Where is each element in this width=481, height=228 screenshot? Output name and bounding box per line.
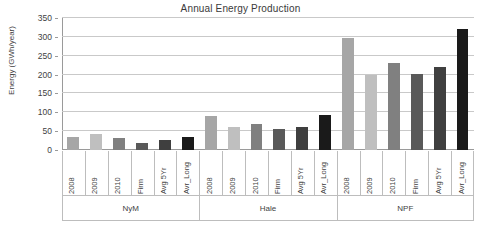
category-separator (382, 151, 383, 195)
x-tick-NPF-2009: 2009 (360, 151, 383, 195)
x-tick-NyM-Avr_Long: Avr_Long (176, 151, 199, 195)
y-tick-label-350: 350 (38, 13, 52, 23)
group-separator (473, 195, 474, 221)
bar-NPF-2008 (342, 38, 354, 150)
x-tick-NyM-Avg-5Yr: Avg 5Yr (154, 151, 177, 195)
category-separator (154, 151, 155, 195)
category-separator (360, 151, 361, 195)
x-axis-category-labels: 200820092010FirmAvg 5YrAvr_Long200820092… (62, 151, 474, 195)
group-separator (62, 195, 63, 221)
y-tick-mark-50 (55, 131, 58, 132)
bar-Hale-Avg-5Yr (296, 127, 308, 150)
y-tick-mark-300 (55, 37, 58, 38)
x-tick-NPF-Firm: Firm (405, 151, 428, 195)
group-label-NyM: NyM (62, 195, 199, 221)
group-label-Hale: Hale (199, 195, 336, 221)
category-separator (428, 151, 429, 195)
category-separator (473, 151, 474, 195)
bar-NPF-2009 (365, 75, 377, 150)
chart-title: Annual Energy Production (0, 3, 481, 14)
bar-NyM-Avg-5Yr (159, 140, 171, 150)
category-separator (62, 151, 63, 195)
y-tick-mark-350 (55, 18, 58, 19)
y-tick-label-100: 100 (38, 107, 52, 117)
x-tick-label: Avr_Long (457, 162, 466, 194)
y-tick-mark-200 (55, 75, 58, 76)
bar-Hale-2010 (251, 124, 263, 150)
y-tick-label-150: 150 (38, 88, 52, 98)
category-separator (108, 151, 109, 195)
x-tick-NPF-Avr_Long: Avr_Long (451, 151, 474, 195)
x-tick-Hale-Firm: Firm (268, 151, 291, 195)
category-separator (176, 151, 177, 195)
bar-NyM-Firm (136, 143, 148, 150)
bar-NyM-2009 (90, 134, 102, 150)
x-tick-Hale-Avg-5Yr: Avg 5Yr (291, 151, 314, 195)
y-tick-mark-150 (55, 93, 58, 94)
x-tick-label: Avg 5Yr (297, 167, 306, 194)
bar-NPF-Firm (411, 74, 423, 150)
x-tick-label: 2010 (388, 177, 397, 194)
bar-NyM-2010 (113, 138, 125, 150)
annual-energy-production-chart: Annual Energy Production Energy (GWh/yea… (0, 0, 481, 228)
group-separator (199, 195, 200, 221)
y-tick-label-0: 0 (47, 145, 52, 155)
category-separator (85, 151, 86, 195)
x-tick-label: 2008 (68, 177, 77, 194)
y-tick-label-50: 50 (43, 126, 52, 136)
bars-layer (62, 18, 474, 150)
category-separator (222, 151, 223, 195)
group-label-text: NyM (122, 204, 138, 213)
x-tick-label: Avg 5Yr (434, 167, 443, 194)
category-separator (245, 151, 246, 195)
x-tick-label: Firm (274, 179, 283, 194)
x-tick-NyM-Firm: Firm (131, 151, 154, 195)
plot-area (62, 18, 474, 150)
x-tick-Hale-2010: 2010 (245, 151, 268, 195)
group-label-text: NPF (397, 204, 413, 213)
bar-Hale-2009 (228, 127, 240, 150)
category-separator (291, 151, 292, 195)
category-separator (131, 151, 132, 195)
x-tick-label: 2009 (228, 177, 237, 194)
x-tick-label: Firm (136, 179, 145, 194)
y-tick-label-300: 300 (38, 32, 52, 42)
bar-Hale-Avr_Long (319, 115, 331, 150)
bar-Hale-2008 (205, 116, 217, 150)
category-separator (314, 151, 315, 195)
y-tick-label-200: 200 (38, 70, 52, 80)
category-separator (451, 151, 452, 195)
x-tick-Hale-2009: 2009 (222, 151, 245, 195)
x-tick-label: 2008 (205, 177, 214, 194)
group-label-NPF: NPF (337, 195, 474, 221)
bar-NyM-Avr_Long (182, 137, 194, 150)
group-label-text: Hale (260, 204, 276, 213)
category-separator (199, 151, 200, 195)
x-tick-Hale-Avr_Long: Avr_Long (314, 151, 337, 195)
x-tick-label: Avr_Long (320, 162, 329, 194)
x-tick-label: 2008 (342, 177, 351, 194)
group-label-bottom-rule (62, 220, 474, 221)
x-tick-label: Avr_Long (182, 162, 191, 194)
x-tick-Hale-2008: 2008 (199, 151, 222, 195)
bar-Hale-Firm (273, 129, 285, 150)
bar-NPF-Avg-5Yr (434, 67, 446, 150)
x-tick-label: Firm (411, 179, 420, 194)
y-tick-label-250: 250 (38, 51, 52, 61)
x-tick-NPF-2010: 2010 (382, 151, 405, 195)
x-tick-NyM-2008: 2008 (62, 151, 85, 195)
bar-NyM-2008 (67, 137, 79, 150)
y-tick-mark-250 (55, 56, 58, 57)
y-tick-mark-100 (55, 112, 58, 113)
category-separator (268, 151, 269, 195)
x-tick-NPF-Avg-5Yr: Avg 5Yr (428, 151, 451, 195)
y-tick-mark-0 (55, 150, 58, 151)
x-axis-group-labels: NyMHaleNPF (62, 195, 474, 221)
x-tick-label: Avg 5Yr (159, 167, 168, 194)
bar-NPF-Avr_Long (457, 29, 469, 150)
x-tick-label: 2010 (114, 177, 123, 194)
x-tick-NyM-2009: 2009 (85, 151, 108, 195)
bar-NPF-2010 (388, 63, 400, 150)
category-separator (337, 151, 338, 195)
x-tick-label: 2009 (365, 177, 374, 194)
